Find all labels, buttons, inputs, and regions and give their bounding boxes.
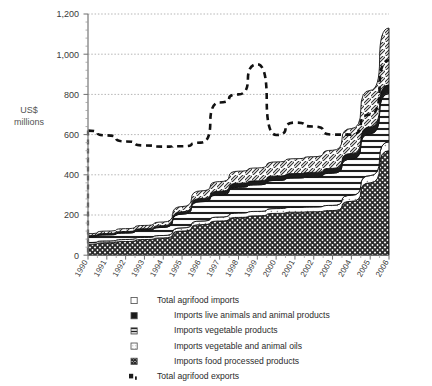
legend-swatch-open-white: [131, 297, 137, 303]
chart-canvas: 02004006008001,0001,200 1990199119921993…: [0, 0, 432, 386]
y-tick-label: 1,000: [56, 50, 79, 60]
legend-label: Imports live animals and animal products: [174, 310, 330, 320]
x-axis-ticks: [88, 255, 389, 259]
legend-label: Imports food processed products: [174, 356, 299, 366]
x-tick-label: 2000: [261, 258, 278, 278]
x-tick-label: 1999: [242, 258, 259, 278]
legend-swatch-light-dots: [131, 343, 137, 349]
legend-label: Imports vegetable and animal oils: [174, 341, 302, 351]
x-tick-label: 1996: [186, 258, 203, 278]
agrifood-trade-chart: 02004006008001,0001,200 1990199119921993…: [0, 0, 432, 386]
x-tick-label: 1993: [129, 258, 146, 278]
x-tick-label: 1994: [148, 258, 165, 278]
x-tick-label: 2001: [280, 258, 297, 278]
y-tick-label: 800: [64, 90, 79, 100]
x-axis-tick-labels: 1990199119921993199419951996199719981999…: [73, 258, 391, 278]
legend-swatch-horizontal-lines: [131, 328, 137, 334]
y-axis-title-line1: US$: [20, 105, 38, 115]
legend-swatch-cross-hatch-dense: [131, 358, 137, 364]
y-tick-label: 1,200: [56, 9, 79, 19]
x-tick-label: 1990: [73, 258, 90, 278]
y-axis-ticks: 02004006008001,0001,200: [56, 9, 88, 260]
legend-label: Total agrifood imports: [157, 295, 239, 305]
x-tick-label: 2006: [374, 258, 391, 278]
y-tick-label: 400: [64, 170, 79, 180]
x-tick-label: 1995: [167, 258, 184, 278]
y-tick-label: 600: [64, 130, 79, 140]
x-tick-label: 1991: [92, 258, 109, 278]
legend-label: Imports vegetable products: [174, 325, 278, 335]
y-tick-label: 0: [74, 251, 79, 261]
x-tick-label: 2003: [318, 258, 335, 278]
legend-swatch-solid-dark: [131, 313, 137, 319]
x-tick-label: 2004: [336, 258, 353, 278]
x-tick-label: 1997: [205, 258, 222, 278]
y-tick-label: 200: [64, 210, 79, 220]
y-axis-title-line2: millions: [14, 117, 45, 127]
x-tick-label: 1992: [111, 258, 128, 278]
legend-swatch-dashed-line: [129, 374, 137, 380]
legend-label: Total agrifood exports: [157, 371, 239, 381]
x-tick-label: 2005: [355, 258, 372, 278]
x-tick-label: 2002: [299, 258, 316, 278]
chart-legend: Total agrifood importsImports live anima…: [129, 295, 330, 381]
x-tick-label: 1998: [224, 258, 241, 278]
